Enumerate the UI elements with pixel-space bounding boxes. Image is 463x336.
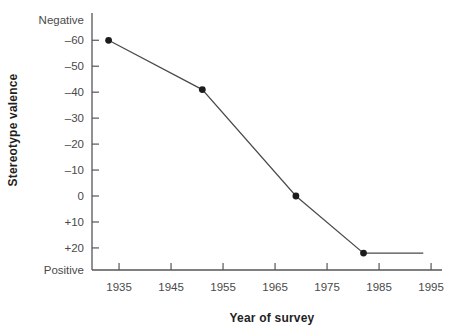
trend-line xyxy=(109,40,424,253)
x-axis-title: Year of survey xyxy=(230,311,315,325)
y-tick-label: –20 xyxy=(65,138,84,150)
data-point xyxy=(360,250,367,257)
chart-figure: –60–50–40–30–20–100+10+20NegativePositiv… xyxy=(0,0,463,336)
y-tick-label: –30 xyxy=(65,112,84,124)
data-point xyxy=(199,86,206,93)
data-point xyxy=(293,193,300,200)
y-tick-label: –40 xyxy=(65,86,84,98)
y-tick-label: 0 xyxy=(78,190,84,202)
data-point xyxy=(105,37,112,44)
y-axis-positive-label: Positive xyxy=(44,264,84,276)
x-tick-label: 1935 xyxy=(106,281,132,293)
y-axis-title: Stereotype valence xyxy=(6,74,20,187)
x-tick-label: 1955 xyxy=(210,281,236,293)
y-tick-label: –10 xyxy=(65,164,84,176)
x-tick-label: 1945 xyxy=(158,281,184,293)
x-tick-label: 1975 xyxy=(314,281,340,293)
y-tick-label: –60 xyxy=(65,34,84,46)
x-tick-label: 1995 xyxy=(418,281,444,293)
y-tick-label: +10 xyxy=(64,216,84,228)
y-axis-negative-label: Negative xyxy=(39,14,84,26)
x-tick-label: 1965 xyxy=(262,281,288,293)
y-tick-label: –50 xyxy=(65,60,84,72)
x-tick-label: 1985 xyxy=(366,281,392,293)
line-chart: –60–50–40–30–20–100+10+20NegativePositiv… xyxy=(0,0,463,336)
y-tick-label: +20 xyxy=(64,242,84,254)
